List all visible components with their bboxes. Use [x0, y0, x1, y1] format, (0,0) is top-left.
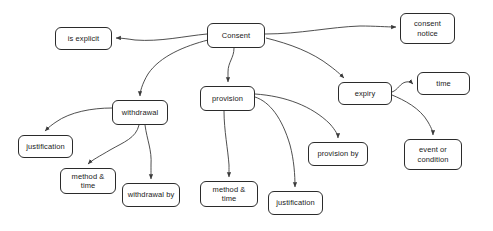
node-withdrawal-by[interactable]: withdrawal by: [122, 183, 180, 207]
edge-consent-to-withdrawal: [140, 40, 208, 96]
edge-withdrawal-to-withdrawal-by: [145, 125, 151, 179]
edge-withdrawal-to-method-time-withdrawal: [88, 125, 139, 164]
node-event-or-condition[interactable]: event or condition: [404, 139, 462, 170]
node-justification-provision[interactable]: justification: [268, 191, 323, 215]
node-provision-by[interactable]: provision by: [308, 142, 368, 166]
node-justification-withdrawal[interactable]: justification: [18, 135, 73, 158]
edge-consent-to-provision: [228, 48, 234, 82]
edge-provision-to-method-time-provision: [224, 111, 229, 177]
edge-provision-to-justification-provision: [255, 97, 295, 187]
edge-withdrawal-to-justification-withdrawal: [45, 108, 112, 131]
node-consent[interactable]: Consent: [207, 23, 265, 48]
node-consent-notice[interactable]: consent notice: [400, 13, 455, 44]
concept-map-diagram: Consentis explicitconsent noticewithdraw…: [0, 0, 493, 231]
node-provision[interactable]: provision: [200, 86, 255, 111]
edge-provision-to-provision-by: [255, 94, 338, 138]
edge-consent-to-expiry: [266, 38, 344, 78]
node-expiry[interactable]: expiry: [338, 82, 392, 105]
node-time[interactable]: time: [417, 72, 470, 95]
node-method-time-provision[interactable]: method & time: [200, 181, 258, 207]
edge-consent-to-consent-notice: [265, 26, 396, 34]
edge-consent-to-is-explicit: [116, 34, 207, 40]
node-is-explicit[interactable]: is explicit: [55, 27, 112, 50]
edge-expiry-to-time: [392, 82, 413, 92]
node-method-time-withdrawal[interactable]: method & time: [60, 168, 116, 194]
edge-expiry-to-event-or-condition: [392, 95, 433, 135]
node-withdrawal[interactable]: withdrawal: [112, 100, 168, 125]
